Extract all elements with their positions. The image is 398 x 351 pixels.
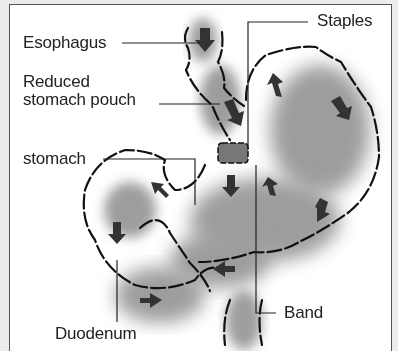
duodenum-upper-fill	[104, 182, 156, 238]
staples-block	[218, 143, 248, 163]
label-band: Band	[284, 304, 323, 322]
arrow-stomach-up	[267, 73, 283, 97]
label-reduced-pouch-line1: Reduced	[23, 72, 90, 91]
label-esophagus: Esophagus	[23, 34, 106, 52]
arrow-duodenum-top	[151, 182, 169, 198]
label-duodenum: Duodenum	[55, 325, 137, 343]
label-reduced-pouch-line2: stomach pouch	[23, 90, 136, 109]
duodenum-lower-fill	[115, 267, 205, 323]
label-stomach: stomach	[23, 150, 86, 168]
label-reduced-pouch: Reduced stomach pouch	[23, 73, 136, 110]
label-staples: Staples	[317, 12, 372, 30]
stomach-diagram	[0, 0, 398, 351]
